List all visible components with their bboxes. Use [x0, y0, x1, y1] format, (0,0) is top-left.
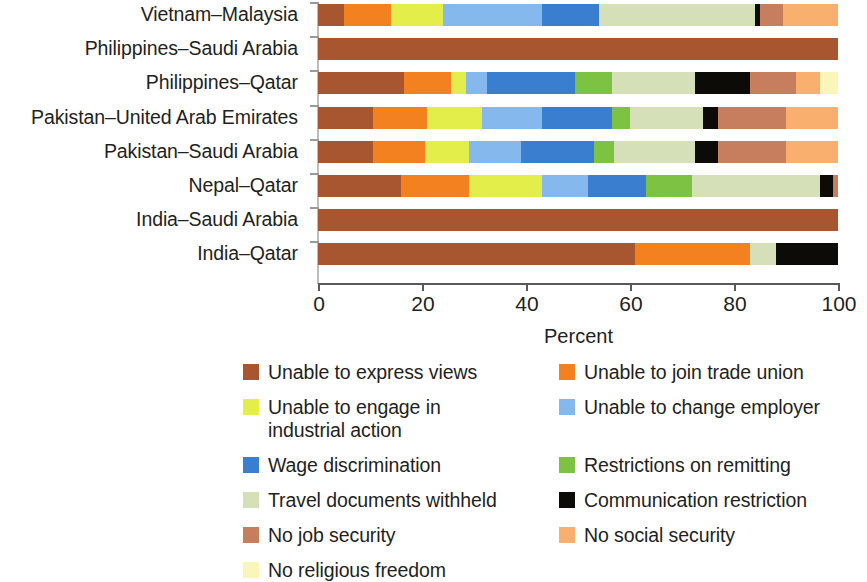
bar-segment	[695, 141, 718, 163]
x-tick-mark	[422, 283, 424, 291]
bar-row	[318, 209, 838, 231]
legend-item[interactable]: Unable to express views	[243, 361, 477, 384]
legend-label: Restrictions on remitting	[584, 454, 791, 477]
category-tick	[310, 207, 319, 209]
category-label: Philippines–Qatar	[146, 71, 298, 93]
legend-item[interactable]: No religious freedom	[243, 559, 446, 582]
x-tick-mark	[734, 283, 736, 291]
legend-label: Wage discrimination	[268, 454, 441, 477]
bar-segment	[612, 72, 695, 94]
bar-segment	[575, 72, 611, 94]
bar-segment	[786, 107, 838, 129]
legend-label: Unable to change employer	[584, 396, 820, 419]
legend-item[interactable]: Unable to change employer	[559, 396, 820, 419]
bar-segment	[391, 4, 443, 26]
legend-swatch-icon	[559, 492, 575, 508]
bar-segment	[451, 72, 467, 94]
legend-swatch-icon	[243, 364, 259, 380]
bar-segment	[820, 72, 838, 94]
legend-swatch-icon	[243, 527, 259, 543]
legend-label: Unable to join trade union	[584, 361, 804, 384]
bar-segment	[318, 141, 373, 163]
bar-segment	[466, 72, 487, 94]
bar-segment	[594, 141, 615, 163]
bar-segment	[427, 107, 482, 129]
bar-segment	[635, 243, 749, 265]
legend-item[interactable]: Communication restriction	[559, 489, 807, 512]
legend-swatch-icon	[559, 399, 575, 415]
legend-swatch-icon	[243, 399, 259, 415]
bar-segment	[542, 107, 612, 129]
x-tick-mark	[526, 283, 528, 291]
bar-segment	[318, 4, 344, 26]
x-tick-label: 100	[821, 292, 856, 316]
bar-segment	[599, 4, 755, 26]
bar-segment	[344, 4, 391, 26]
category-tick	[310, 2, 319, 4]
category-label: Pakistan–Saudi Arabia	[104, 140, 298, 162]
category-label: Vietnam–Malaysia	[141, 3, 298, 25]
bar-row	[318, 141, 838, 163]
bars-container	[318, 0, 838, 278]
bar-row	[318, 72, 838, 94]
legend-item[interactable]: Wage discrimination	[243, 454, 441, 477]
bar-segment	[612, 107, 630, 129]
legend-item[interactable]: Restrictions on remitting	[559, 454, 791, 477]
legend-item[interactable]: Unable to engage in industrial action	[243, 396, 441, 442]
bar-row	[318, 107, 838, 129]
legend-swatch-icon	[559, 457, 575, 473]
legend-label: Unable to express views	[268, 361, 477, 384]
legend-item[interactable]: Unable to join trade union	[559, 361, 804, 384]
bar-segment	[783, 4, 838, 26]
bar-segment	[521, 141, 594, 163]
bar-segment	[373, 141, 425, 163]
legend-label: No job security	[268, 524, 395, 547]
bar-segment	[318, 72, 404, 94]
bar-segment	[318, 209, 838, 231]
category-tick	[310, 173, 319, 175]
bar-row	[318, 38, 838, 60]
x-axis-line	[318, 283, 839, 285]
bar-segment	[796, 72, 819, 94]
legend-item[interactable]: No social security	[559, 524, 735, 547]
plot-area: Vietnam–MalaysiaPhilippines–Saudi Arabia…	[0, 0, 867, 300]
legend-swatch-icon	[243, 457, 259, 473]
x-tick-mark	[630, 283, 632, 291]
bar-segment	[542, 4, 599, 26]
bar-segment	[404, 72, 451, 94]
bar-segment	[718, 141, 786, 163]
x-tick-label: 20	[411, 292, 434, 316]
bar-segment	[588, 175, 645, 197]
category-label: Pakistan–United Arab Emirates	[31, 106, 298, 128]
legend-item[interactable]: No job security	[243, 524, 395, 547]
bar-segment	[695, 72, 750, 94]
bar-segment	[318, 243, 635, 265]
bar-segment	[750, 72, 797, 94]
bar-segment	[318, 38, 838, 60]
legend-swatch-icon	[559, 364, 575, 380]
bar-segment	[820, 175, 833, 197]
bar-segment	[630, 107, 703, 129]
bar-segment	[318, 107, 373, 129]
bar-segment	[614, 141, 695, 163]
category-tick	[310, 139, 319, 141]
x-tick-label: 80	[723, 292, 746, 316]
legend-swatch-icon	[243, 562, 259, 578]
bar-row	[318, 175, 838, 197]
bar-segment	[833, 175, 838, 197]
category-tick	[310, 241, 319, 243]
x-tick-label: 0	[313, 292, 325, 316]
bar-segment	[718, 107, 786, 129]
category-label: India–Saudi Arabia	[136, 208, 298, 230]
chart-legend: Unable to express viewsUnable to engage …	[243, 361, 867, 566]
bar-segment	[482, 107, 542, 129]
bar-segment	[469, 175, 542, 197]
bar-segment	[542, 175, 589, 197]
legend-item[interactable]: Travel documents withheld	[243, 489, 497, 512]
x-tick-mark	[838, 283, 840, 291]
bar-segment	[646, 175, 693, 197]
category-tick	[310, 36, 319, 38]
legend-swatch-icon	[243, 492, 259, 508]
bar-segment	[318, 175, 401, 197]
bar-segment	[760, 4, 783, 26]
